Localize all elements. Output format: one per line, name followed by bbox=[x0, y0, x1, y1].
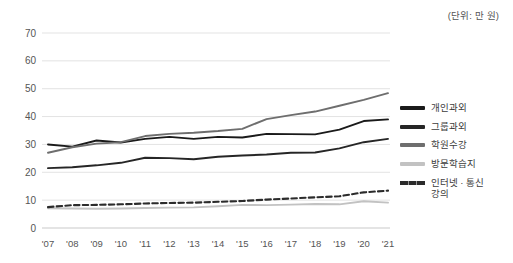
x-axis-tick-label: '12 bbox=[163, 238, 175, 249]
legend-item[interactable]: 그룹과외 bbox=[400, 121, 513, 132]
series-line-학원수강 bbox=[48, 93, 388, 153]
x-axis-tick-label: '14 bbox=[212, 238, 224, 249]
x-axis-tick-label: '21 bbox=[382, 238, 394, 249]
x-axis-tick-label: '15 bbox=[236, 238, 248, 249]
chart-legend: 개인과외그룹과외학원수강방문학습지인터넷 · 통신 강의 bbox=[400, 102, 513, 207]
y-axis-tick-label: 40 bbox=[25, 111, 37, 122]
x-axis-tick-labels: '07'08'09'10'11'12'13'14'15'16'17'18'19'… bbox=[42, 238, 394, 249]
legend-item-label: 방문학습지 bbox=[431, 158, 476, 169]
y-axis-tick-label: 70 bbox=[25, 28, 37, 39]
legend-swatch-icon bbox=[400, 125, 425, 129]
legend-item[interactable]: 학원수강 bbox=[400, 139, 513, 150]
legend-swatch-icon bbox=[400, 106, 425, 110]
y-axis-tick-labels: 010203040506070 bbox=[25, 28, 37, 234]
x-axis-tick-label: '11 bbox=[139, 238, 151, 249]
x-axis-tick-label: '20 bbox=[358, 238, 370, 249]
x-axis-tick-label: '13 bbox=[188, 238, 200, 249]
y-axis-tick-label: 60 bbox=[25, 55, 37, 66]
legend-item[interactable]: 인터넷 · 통신 강의 bbox=[400, 177, 513, 199]
chart-container: (단위: 만 원) 010203040506070 '07'08'09'10'1… bbox=[0, 0, 513, 263]
y-axis-tick-label: 0 bbox=[30, 223, 36, 234]
x-axis-tick-label: '09 bbox=[90, 238, 102, 249]
legend-swatch-icon bbox=[400, 181, 425, 189]
y-axis-tick-label: 30 bbox=[25, 139, 37, 150]
x-axis-tick-label: '07 bbox=[42, 238, 54, 249]
x-axis-tick-label: '18 bbox=[309, 238, 321, 249]
x-axis-tick-label: '08 bbox=[66, 238, 78, 249]
legend-item[interactable]: 개인과외 bbox=[400, 102, 513, 113]
legend-item-label: 그룹과외 bbox=[431, 121, 467, 132]
y-axis-tick-label: 20 bbox=[25, 167, 37, 178]
legend-item-label: 개인과외 bbox=[431, 102, 467, 113]
x-axis-tick-label: '19 bbox=[333, 238, 345, 249]
y-axis-tick-label: 10 bbox=[25, 195, 37, 206]
x-axis-tick-label: '10 bbox=[115, 238, 127, 249]
y-axis-tick-label: 50 bbox=[25, 83, 37, 94]
legend-item-label: 학원수강 bbox=[431, 139, 467, 150]
series-lines bbox=[48, 93, 388, 209]
legend-item-label: 인터넷 · 통신 강의 bbox=[431, 177, 484, 199]
x-axis-tick-label: '17 bbox=[285, 238, 297, 249]
x-axis-tick-label: '16 bbox=[260, 238, 272, 249]
legend-swatch-icon bbox=[400, 162, 425, 166]
legend-swatch-icon bbox=[400, 143, 425, 147]
legend-item[interactable]: 방문학습지 bbox=[400, 158, 513, 169]
